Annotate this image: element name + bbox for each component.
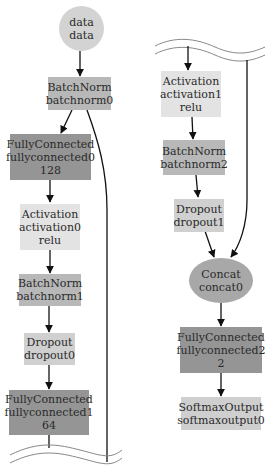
- node-name: fullyconnected2: [177, 344, 266, 357]
- node-op: Activation: [163, 75, 219, 88]
- node-activation0[interactable]: Activation activation0 relu: [20, 204, 80, 250]
- edge-dropout1-concat0: [205, 231, 214, 257]
- node-op: Activation: [22, 208, 78, 221]
- node-fullyconnected2[interactable]: FullyConnected fullyconnected2 2: [180, 327, 262, 373]
- node-name: fullyconnected1: [5, 406, 94, 419]
- break-mark-left-2: [10, 453, 122, 464]
- node-op: FullyConnected: [177, 331, 265, 344]
- edge-batchnorm2-dropout1: [196, 175, 198, 197]
- edge-activation1-batchnorm2: [192, 117, 193, 139]
- node-batchnorm2[interactable]: BatchNorm batchnorm2: [163, 140, 225, 175]
- node-batchnorm1[interactable]: BatchNorm batchnorm1: [19, 274, 81, 306]
- node-dropout1[interactable]: Dropout dropout1: [174, 199, 224, 232]
- node-op: Concat: [201, 268, 240, 281]
- edge-batchnorm0-concat0-right: [231, 60, 247, 257]
- node-batchnorm0[interactable]: BatchNorm batchnorm0: [48, 77, 111, 110]
- node-param: relu: [39, 234, 61, 247]
- node-dropout0[interactable]: Dropout dropout0: [24, 333, 75, 365]
- node-param: 64: [42, 419, 56, 432]
- node-name: dropout0: [24, 349, 75, 362]
- node-op: data: [69, 16, 94, 29]
- node-op: Dropout: [176, 203, 222, 216]
- edge-batchnorm0-fullyconnected0: [61, 110, 72, 133]
- node-op: FullyConnected: [5, 393, 93, 406]
- node-activation1[interactable]: Activation activation1 relu: [161, 71, 221, 117]
- node-data[interactable]: data data: [59, 6, 104, 51]
- node-op: BatchNorm: [18, 277, 82, 290]
- node-name: dropout1: [173, 216, 224, 229]
- break-mark-right-2: [155, 47, 265, 61]
- node-name: activation1: [160, 88, 222, 101]
- node-param: 2: [218, 357, 225, 370]
- node-param: relu: [180, 101, 202, 114]
- node-op: FullyConnected: [7, 138, 95, 151]
- node-op: SoftmaxOutput: [179, 401, 264, 414]
- break-mark-right-1: [155, 39, 265, 53]
- node-fullyconnected0[interactable]: FullyConnected fullyconnected0 128: [10, 134, 91, 180]
- node-name: batchnorm0: [46, 94, 114, 107]
- node-softmaxoutput0[interactable]: SoftmaxOutput softmaxoutput0: [181, 397, 261, 430]
- node-op: Dropout: [27, 336, 73, 349]
- node-name: concat0: [199, 281, 243, 294]
- node-op: BatchNorm: [47, 81, 111, 94]
- node-name: activation0: [19, 221, 81, 234]
- node-name: batchnorm2: [160, 158, 228, 171]
- node-fullyconnected1[interactable]: FullyConnected fullyconnected1 64: [9, 390, 89, 435]
- node-name: batchnorm1: [16, 290, 84, 303]
- node-name: data: [69, 29, 94, 42]
- node-name: softmaxoutput0: [177, 414, 265, 427]
- node-op: BatchNorm: [162, 145, 226, 158]
- node-concat0[interactable]: Concat concat0: [189, 258, 253, 303]
- node-param: 128: [40, 164, 61, 177]
- break-mark-left-1: [10, 445, 122, 456]
- node-name: fullyconnected0: [6, 151, 95, 164]
